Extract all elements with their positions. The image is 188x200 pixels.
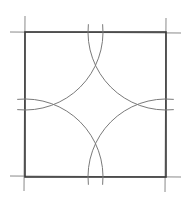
arc-top-left bbox=[17, 24, 103, 110]
corner-arcs bbox=[17, 24, 174, 185]
square-arcs-diagram bbox=[0, 0, 188, 200]
arc-top-right bbox=[88, 24, 174, 110]
arc-bottom-right bbox=[88, 99, 174, 185]
arc-bottom-left bbox=[17, 99, 103, 185]
square-outline bbox=[25, 32, 166, 177]
extension-lines bbox=[10, 16, 181, 192]
